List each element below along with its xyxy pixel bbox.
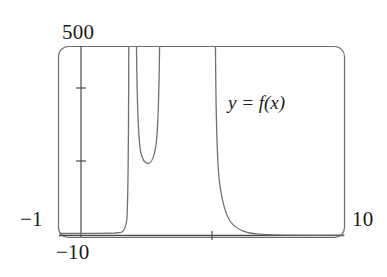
function-plot-figure: 500 −1 −10 10 y = f(x) <box>0 0 387 277</box>
curve-branch-right <box>216 47 345 235</box>
plot-canvas <box>0 0 387 277</box>
plot-frame <box>59 47 345 238</box>
function-curve <box>60 47 344 235</box>
curve-branch-valley <box>137 47 160 164</box>
y-max-label: 500 <box>62 22 94 43</box>
y-min-label: −1 <box>20 209 43 230</box>
curve-branch-left <box>60 47 129 234</box>
curve-equation-label: y = f(x) <box>228 92 285 114</box>
x-max-label: 10 <box>352 209 373 230</box>
x-min-label: −10 <box>56 242 89 263</box>
